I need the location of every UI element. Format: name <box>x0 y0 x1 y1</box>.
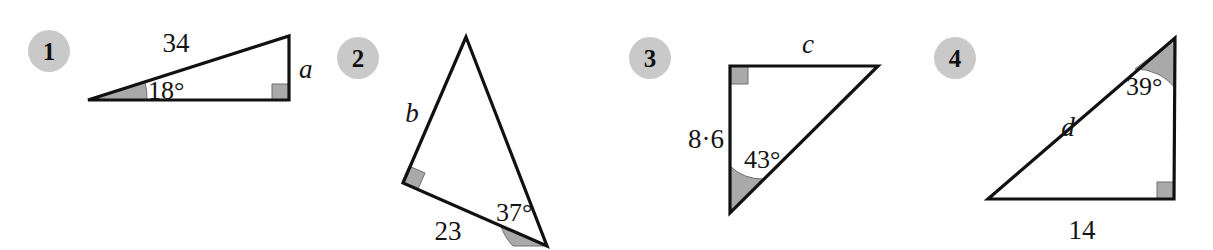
unknown-side-label-a: a <box>299 54 313 84</box>
vertical-length-label: 8·6 <box>688 124 724 154</box>
angle-measure-label: 37° <box>496 198 532 227</box>
base-length-label: 23 <box>435 216 462 246</box>
right-angle-marker <box>1157 182 1174 199</box>
question-number-label: 4 <box>949 45 962 72</box>
hypotenuse-length-label: 34 <box>163 28 191 58</box>
right-angle-marker <box>272 84 289 100</box>
right-angle-marker <box>730 66 748 84</box>
question-number-label: 1 <box>43 38 56 65</box>
base-length-label: 14 <box>1069 215 1097 245</box>
angle-measure-label: 43° <box>744 145 780 174</box>
unknown-side-label-b: b <box>405 98 419 128</box>
unknown-side-label-d: d <box>1061 112 1075 142</box>
angle-measure-label: 18° <box>148 76 184 105</box>
question-number-label: 2 <box>352 45 365 72</box>
exercise-figure-panel: 118°34a237°b23343°c8·6439°d14 <box>0 0 1213 250</box>
question-number-label: 3 <box>644 45 657 72</box>
triangles-diagram-canvas: 118°34a237°b23343°c8·6439°d14 <box>0 0 1213 250</box>
unknown-side-label-c: c <box>802 29 814 59</box>
angle-measure-label: 39° <box>1126 72 1162 101</box>
